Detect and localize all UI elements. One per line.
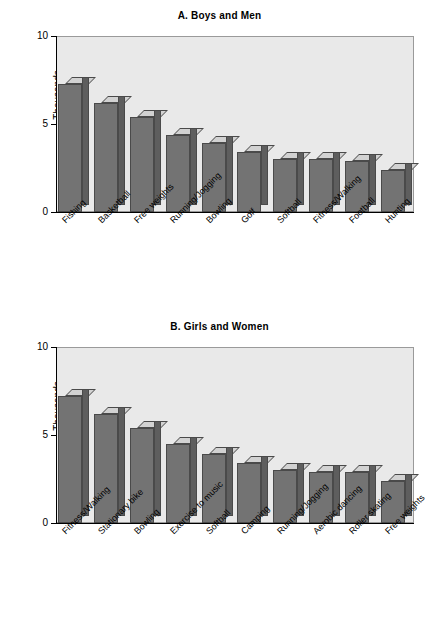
bar (237, 145, 268, 212)
chart-panel-a: A. Boys and Men Thousands 10 5 0 Fishing… (0, 0, 439, 311)
bar-front-face (58, 396, 82, 523)
bar-side-face (82, 389, 89, 516)
bar-side-face (154, 421, 161, 516)
chart-a-ytick-5: 5 (26, 119, 48, 129)
chart-b-ytick-5: 5 (26, 430, 48, 440)
bar-front-face (94, 103, 118, 212)
bar-top-face (388, 474, 419, 481)
chart-b-title: B. Girls and Women (0, 321, 439, 332)
chart-a-ytick-10: 10 (26, 31, 48, 41)
chart-b-ytick-10: 10 (26, 342, 48, 352)
chart-a-y-axis-line (56, 36, 57, 213)
bar-side-face (82, 77, 89, 205)
bar-side-face (261, 145, 268, 205)
bar-side-face (297, 152, 304, 205)
bar-front-face (58, 84, 82, 212)
chart-a-title: A. Boys and Men (0, 10, 439, 21)
bar-front-face (94, 414, 118, 523)
bar-top-face (388, 163, 419, 170)
chart-b-ytick-0: 0 (26, 518, 48, 528)
bar (130, 421, 161, 523)
bar-front-face (237, 152, 261, 212)
chart-a-ytick-0: 0 (26, 207, 48, 217)
bar-side-face (226, 136, 233, 205)
bar-side-face (226, 447, 233, 516)
chart-panel-b: B. Girls and Women Thousands 10 5 0 Fitn… (0, 311, 439, 622)
chart-b-y-axis-line (56, 347, 57, 524)
bar (58, 77, 89, 212)
